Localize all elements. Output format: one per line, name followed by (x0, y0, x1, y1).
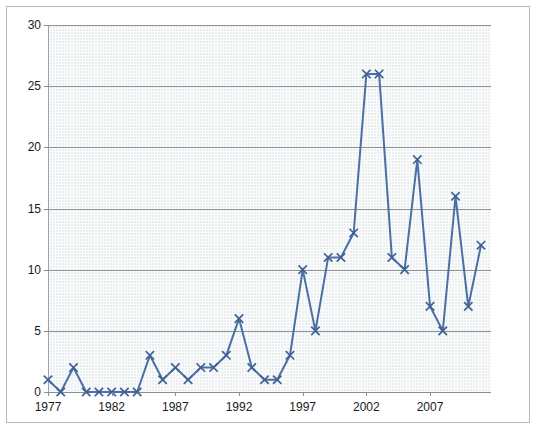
axis-ticks-layer (48, 25, 491, 392)
plot-wrapper: 051015202530 197719821987199219972002200… (48, 25, 491, 392)
y-tick-label-30: 30 (28, 18, 41, 32)
x-tick-label-2007: 2007 (417, 400, 444, 414)
x-tick-label-2002: 2002 (353, 400, 380, 414)
x-tick-label-1987: 1987 (162, 400, 189, 414)
x-tick-label-1977: 1977 (35, 400, 62, 414)
x-tick-label-1982: 1982 (98, 400, 125, 414)
y-tick-label-25: 25 (28, 79, 41, 93)
chart-figure: 051015202530 197719821987199219972002200… (0, 0, 537, 430)
x-tick-label-1992: 1992 (226, 400, 253, 414)
x-tick-label-1997: 1997 (289, 400, 316, 414)
y-tick-label-0: 0 (34, 385, 41, 399)
y-tick-label-20: 20 (28, 140, 41, 154)
y-tick-label-5: 5 (34, 324, 41, 338)
y-tick-label-10: 10 (28, 263, 41, 277)
y-tick-label-15: 15 (28, 202, 41, 216)
